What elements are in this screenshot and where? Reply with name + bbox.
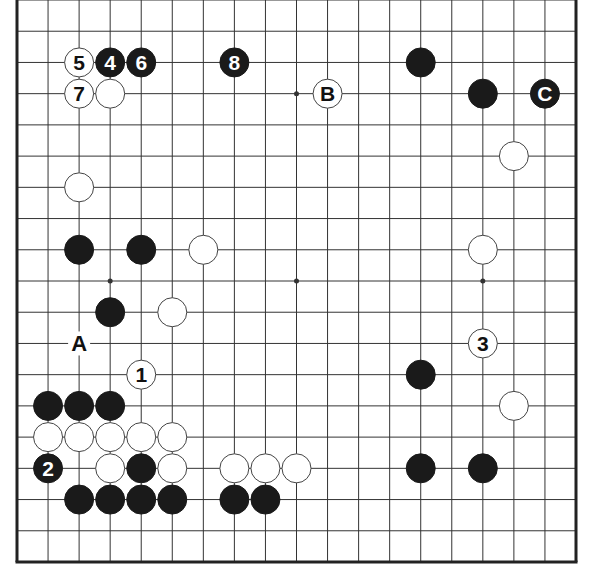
point-label-text: A bbox=[71, 331, 87, 356]
stone-label: 8 bbox=[229, 51, 241, 74]
white-stone-icon bbox=[499, 142, 528, 171]
white-stone bbox=[499, 142, 528, 171]
star-point-icon bbox=[294, 279, 299, 284]
white-stone-icon bbox=[251, 454, 280, 483]
white-stone bbox=[158, 298, 187, 327]
black-stone: 2 bbox=[34, 454, 63, 483]
black-stone bbox=[96, 485, 125, 514]
black-stone bbox=[251, 485, 280, 514]
stone-label: 6 bbox=[135, 51, 147, 74]
go-board: 54687BC312 A bbox=[0, 0, 593, 586]
stone-label: C bbox=[537, 82, 552, 105]
black-stone-icon bbox=[127, 235, 156, 264]
black-stone bbox=[468, 454, 497, 483]
white-stone-icon bbox=[499, 391, 528, 420]
black-stone bbox=[34, 391, 63, 420]
white-stone bbox=[65, 423, 94, 452]
stone-label: 4 bbox=[104, 51, 116, 74]
black-stone bbox=[127, 454, 156, 483]
white-stone-icon bbox=[127, 423, 156, 452]
black-stone: 6 bbox=[127, 48, 156, 77]
white-stone-icon bbox=[158, 423, 187, 452]
black-stone-icon bbox=[406, 48, 435, 77]
black-stone bbox=[65, 235, 94, 264]
white-stone bbox=[96, 79, 125, 108]
black-stone bbox=[468, 79, 497, 108]
white-stone-icon bbox=[96, 79, 125, 108]
white-stone bbox=[468, 235, 497, 264]
star-point-icon bbox=[294, 91, 299, 96]
star-point-icon bbox=[108, 279, 113, 284]
white-stone bbox=[499, 391, 528, 420]
white-stone-icon bbox=[34, 423, 63, 452]
black-stone-icon bbox=[406, 360, 435, 389]
black-stone: C bbox=[530, 79, 559, 108]
stone-label: 7 bbox=[73, 82, 85, 105]
stone-label: 2 bbox=[42, 457, 54, 480]
black-stone bbox=[406, 48, 435, 77]
black-stone: 8 bbox=[220, 48, 249, 77]
black-stone-icon bbox=[65, 391, 94, 420]
white-stone bbox=[96, 454, 125, 483]
white-stone bbox=[65, 173, 94, 202]
point-labels-layer: A bbox=[68, 331, 90, 356]
white-stone bbox=[220, 454, 249, 483]
white-stone bbox=[96, 423, 125, 452]
black-stone-icon bbox=[96, 391, 125, 420]
black-stone bbox=[406, 360, 435, 389]
white-stone: 5 bbox=[65, 48, 94, 77]
black-stone-icon bbox=[468, 454, 497, 483]
black-stone-icon bbox=[251, 485, 280, 514]
white-stone bbox=[127, 423, 156, 452]
white-stone bbox=[158, 423, 187, 452]
black-stone-icon bbox=[65, 485, 94, 514]
white-stone-icon bbox=[96, 454, 125, 483]
black-stone-icon bbox=[468, 79, 497, 108]
white-stone-icon bbox=[220, 454, 249, 483]
black-stone bbox=[127, 235, 156, 264]
white-stone-icon bbox=[158, 298, 187, 327]
black-stone-icon bbox=[220, 485, 249, 514]
black-stone-icon bbox=[158, 485, 187, 514]
black-stone bbox=[65, 391, 94, 420]
white-stone bbox=[282, 454, 311, 483]
white-stone: 1 bbox=[127, 360, 156, 389]
black-stone bbox=[127, 485, 156, 514]
white-stone-icon bbox=[96, 423, 125, 452]
black-stone bbox=[220, 485, 249, 514]
point-label: A bbox=[68, 331, 90, 356]
white-stone bbox=[158, 454, 187, 483]
white-stone: 3 bbox=[468, 329, 497, 358]
black-stone-icon bbox=[127, 454, 156, 483]
black-stone-icon bbox=[96, 298, 125, 327]
stone-label: 3 bbox=[477, 332, 489, 355]
black-stone bbox=[96, 298, 125, 327]
black-stone bbox=[65, 485, 94, 514]
black-stone: 4 bbox=[96, 48, 125, 77]
white-stone-icon bbox=[282, 454, 311, 483]
black-stone-icon bbox=[96, 485, 125, 514]
white-stone-icon bbox=[468, 235, 497, 264]
white-stone-icon bbox=[189, 235, 218, 264]
stone-label: 5 bbox=[73, 51, 85, 74]
black-stone bbox=[96, 391, 125, 420]
star-point-icon bbox=[480, 279, 485, 284]
white-stone bbox=[34, 423, 63, 452]
black-stone-icon bbox=[406, 454, 435, 483]
black-stone bbox=[406, 454, 435, 483]
black-stone-icon bbox=[34, 391, 63, 420]
white-stone: 7 bbox=[65, 79, 94, 108]
black-stone-icon bbox=[65, 235, 94, 264]
white-stone bbox=[251, 454, 280, 483]
white-stone bbox=[189, 235, 218, 264]
black-stone bbox=[158, 485, 187, 514]
white-stone-icon bbox=[65, 173, 94, 202]
stone-label: B bbox=[320, 82, 335, 105]
white-stone-icon bbox=[158, 454, 187, 483]
black-stone-icon bbox=[127, 485, 156, 514]
white-stone-icon bbox=[65, 423, 94, 452]
white-stone: B bbox=[313, 79, 342, 108]
stone-label: 1 bbox=[135, 363, 147, 386]
